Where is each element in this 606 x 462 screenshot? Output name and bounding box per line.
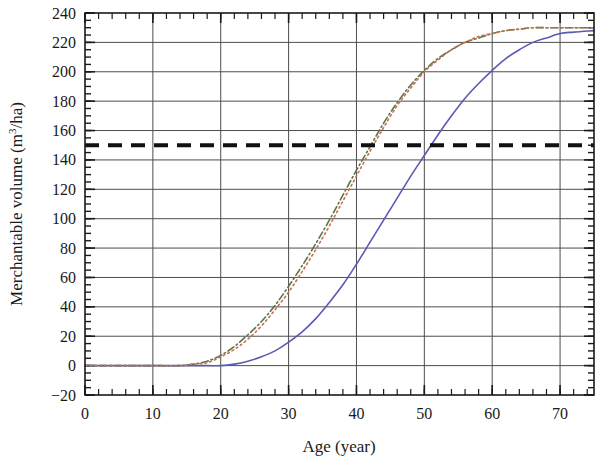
svg-text:Merchantable volume (m3/ha): Merchantable volume (m3/ha) [6, 102, 26, 306]
y-tick-label: 40 [60, 298, 76, 315]
x-tick-label: 0 [81, 405, 89, 422]
y-tick-label: 0 [68, 357, 76, 374]
chart-figure: −20020406080100120140160180200220240 010… [0, 0, 606, 462]
merchantable-volume-line-chart: −20020406080100120140160180200220240 010… [0, 0, 606, 462]
x-tick-label: 70 [552, 405, 568, 422]
y-axis-title: Merchantable volume (m3/ha) [6, 102, 26, 306]
x-axis-title: Age (year) [302, 437, 375, 456]
y-tick-label: 140 [52, 151, 76, 168]
y-tick-label: 160 [52, 122, 76, 139]
y-tick-label: 120 [52, 181, 76, 198]
x-tick-label: 40 [348, 405, 364, 422]
plot-background [85, 13, 594, 395]
y-tick-label: 80 [60, 240, 76, 257]
y-tick-label: 20 [60, 328, 76, 345]
x-tick-label: 30 [281, 405, 297, 422]
y-tick-label: 200 [52, 63, 76, 80]
y-tick-label: 60 [60, 269, 76, 286]
y-tick-label: 220 [52, 34, 76, 51]
y-tick-label: 180 [52, 93, 76, 110]
y-axis-tick-labels: −20020406080100120140160180200220240 [51, 5, 76, 404]
y-axis-title-before: Merchantable volume (m [7, 134, 26, 306]
x-tick-label: 60 [484, 405, 500, 422]
x-tick-label: 10 [145, 405, 161, 422]
x-tick-label: 20 [213, 405, 229, 422]
y-tick-label: 240 [52, 5, 76, 22]
y-tick-label: −20 [51, 387, 76, 404]
y-tick-label: 100 [52, 210, 76, 227]
x-axis-tick-labels: 010203040506070 [81, 405, 568, 422]
y-axis-title-after: /ha) [7, 102, 26, 128]
x-tick-label: 50 [416, 405, 432, 422]
